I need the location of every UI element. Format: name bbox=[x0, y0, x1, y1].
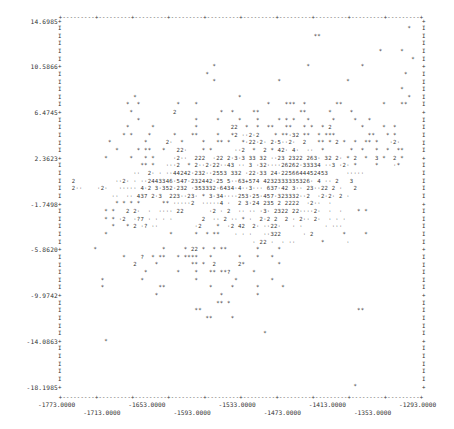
data-point-count: 2 bbox=[191, 200, 194, 207]
data-point: * bbox=[209, 284, 212, 291]
data-point: * bbox=[270, 277, 273, 284]
border-char: + bbox=[422, 201, 426, 208]
data-point: · bbox=[227, 200, 230, 207]
data-point: · bbox=[339, 155, 342, 162]
data-point: * bbox=[137, 200, 140, 207]
data-point: * bbox=[339, 101, 342, 108]
data-point: * bbox=[332, 132, 335, 139]
data-point: * bbox=[177, 269, 180, 276]
y-tick-label: -1.7498 bbox=[0, 201, 58, 208]
data-point: * bbox=[386, 147, 389, 154]
data-point: * bbox=[126, 124, 129, 131]
border-char: I bbox=[422, 231, 426, 238]
data-point: · bbox=[339, 223, 342, 230]
border-char: I bbox=[422, 25, 426, 32]
data-point: * bbox=[195, 101, 198, 108]
data-point-count: 2 bbox=[303, 139, 306, 146]
border-char: I bbox=[422, 124, 426, 131]
data-point: · bbox=[151, 170, 154, 177]
data-point: * bbox=[292, 117, 295, 124]
data-point-count: 2 bbox=[353, 155, 356, 162]
data-point: * bbox=[195, 261, 198, 268]
data-point: * bbox=[274, 132, 277, 139]
data-point-count: 3 bbox=[242, 155, 245, 162]
data-point: * bbox=[202, 193, 205, 200]
data-point: · bbox=[249, 216, 252, 223]
data-point: · bbox=[346, 193, 349, 200]
border-char: + bbox=[422, 155, 426, 162]
data-point: * bbox=[357, 208, 360, 215]
border-char: + bbox=[422, 384, 426, 391]
border-char: + bbox=[422, 63, 426, 70]
data-point: * bbox=[126, 101, 129, 108]
data-point: * bbox=[144, 162, 147, 169]
data-point-count: 4 bbox=[317, 178, 320, 185]
data-point: * bbox=[205, 71, 208, 78]
data-point: * bbox=[220, 292, 223, 299]
data-point-count: 2 bbox=[195, 246, 198, 253]
data-point: * bbox=[379, 48, 382, 55]
data-point: * bbox=[375, 162, 378, 169]
data-point: · bbox=[339, 208, 342, 215]
data-point: · bbox=[263, 139, 266, 146]
data-point-count: 5 bbox=[220, 178, 223, 185]
border-char: I bbox=[422, 185, 426, 192]
data-point: * bbox=[353, 383, 356, 390]
data-point: * bbox=[231, 109, 234, 116]
data-point-count: 2 bbox=[263, 239, 266, 246]
data-point: * bbox=[321, 239, 324, 246]
data-point: · bbox=[234, 231, 237, 238]
data-point: · bbox=[328, 216, 331, 223]
data-point: · bbox=[184, 155, 187, 162]
border-char: I bbox=[58, 71, 62, 78]
border-char: I bbox=[422, 239, 426, 246]
data-point: · bbox=[169, 208, 172, 215]
data-point: * bbox=[144, 155, 147, 162]
border-char: I bbox=[422, 300, 426, 307]
border-char: I bbox=[58, 353, 62, 360]
data-point-count: 2 bbox=[223, 216, 226, 223]
border-char: I bbox=[58, 33, 62, 40]
data-point: * bbox=[408, 25, 411, 32]
border-char: I bbox=[422, 216, 426, 223]
data-point: * bbox=[173, 132, 176, 139]
data-point: * bbox=[281, 284, 284, 291]
y-tick-label: 6.4745 bbox=[0, 109, 58, 116]
data-point-count: ? bbox=[144, 223, 147, 230]
data-point: * bbox=[353, 117, 356, 124]
data-point: * bbox=[361, 307, 364, 314]
data-point: * bbox=[130, 155, 133, 162]
data-point-count: 2 bbox=[122, 216, 125, 223]
data-point: * bbox=[205, 231, 208, 238]
data-point: * bbox=[137, 101, 140, 108]
data-point-count: 2 bbox=[234, 124, 237, 131]
data-point-count: 2 bbox=[198, 223, 201, 230]
data-point-count: 2 bbox=[256, 132, 259, 139]
border-char: I bbox=[422, 48, 426, 55]
data-point-count: 2 bbox=[328, 124, 331, 131]
data-point: · bbox=[252, 208, 255, 215]
data-point: · bbox=[133, 178, 136, 185]
data-point: * bbox=[177, 254, 180, 261]
border-char: I bbox=[422, 170, 426, 177]
data-point-count: ? bbox=[140, 254, 143, 261]
data-point-count: 2 bbox=[310, 231, 313, 238]
data-point: * bbox=[209, 147, 212, 154]
border-char: + bbox=[422, 18, 426, 25]
border-char: I bbox=[58, 269, 62, 276]
data-point: * bbox=[115, 147, 118, 154]
data-point: * bbox=[195, 269, 198, 276]
data-point: * bbox=[155, 292, 158, 299]
border-char: I bbox=[422, 56, 426, 63]
data-point: · bbox=[242, 208, 245, 215]
data-point-count: 2 bbox=[213, 208, 216, 215]
border-char: I bbox=[422, 307, 426, 314]
border-char: I bbox=[58, 140, 62, 147]
border-char: I bbox=[422, 33, 426, 40]
data-point: * bbox=[343, 139, 346, 146]
data-point: · bbox=[195, 193, 198, 200]
border-char: I bbox=[58, 361, 62, 368]
border-char: I bbox=[58, 193, 62, 200]
border-char: I bbox=[58, 162, 62, 169]
data-point: * bbox=[256, 284, 259, 291]
